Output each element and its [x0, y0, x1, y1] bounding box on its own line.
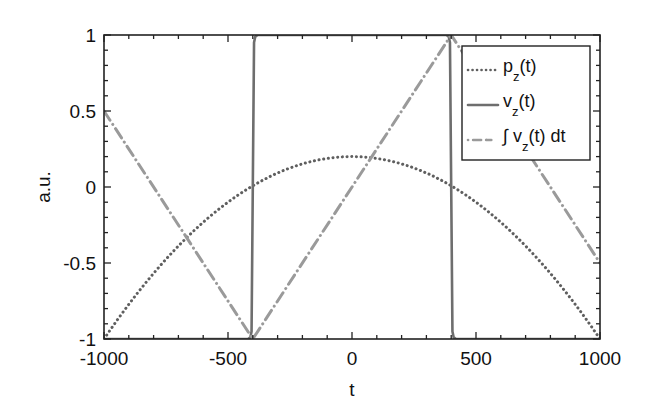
x-axis-label: t: [349, 379, 355, 400]
y-tick-label: -0.5: [63, 253, 96, 274]
y-axis-label: a.u.: [33, 171, 54, 203]
y-tick-label: 1: [85, 25, 96, 46]
x-tick-label: -1000: [80, 348, 129, 369]
x-tick-label: 500: [460, 348, 492, 369]
line-chart: -1000-50005001000 -1-0.500.51 t a.u. pz(…: [0, 0, 649, 415]
series-1-line: [104, 157, 600, 339]
y-tick-labels: -1-0.500.51: [63, 25, 96, 350]
x-tick-labels: -1000-50005001000: [80, 348, 621, 369]
x-tick-label: 1000: [579, 348, 621, 369]
y-tick-label: -1: [79, 329, 96, 350]
legend: pz(t)vz(t)∫ vz(t) dt: [462, 46, 590, 160]
y-tick-label: 0.5: [70, 101, 96, 122]
y-tick-label: 0: [85, 177, 96, 198]
x-tick-label: 0: [347, 348, 358, 369]
x-tick-label: -500: [209, 348, 247, 369]
